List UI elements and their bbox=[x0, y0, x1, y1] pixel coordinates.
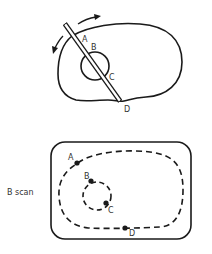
top-panel: A B C D bbox=[52, 14, 182, 114]
sweep-arrow-right-icon bbox=[78, 14, 101, 24]
b-scan-label: B scan bbox=[7, 188, 34, 197]
bottom-panel: B scan A B C D bbox=[7, 142, 191, 239]
label-c-scan: C bbox=[108, 206, 114, 215]
b-scan-diagram: A B C D B scan A B C D bbox=[0, 0, 212, 254]
transducer-probe bbox=[63, 23, 122, 103]
label-a: A bbox=[82, 35, 88, 44]
label-b-scan: B bbox=[84, 172, 90, 181]
echo-dot-d bbox=[122, 225, 127, 230]
label-b: B bbox=[91, 43, 97, 52]
label-d: D bbox=[124, 105, 130, 114]
label-a-scan: A bbox=[68, 153, 74, 162]
echo-dot-a bbox=[74, 160, 79, 165]
label-d-scan: D bbox=[129, 229, 135, 238]
organ-outline bbox=[58, 24, 182, 102]
echo-dot-c bbox=[103, 200, 108, 205]
label-c: C bbox=[109, 73, 115, 82]
echo-inner-structure bbox=[83, 182, 111, 210]
